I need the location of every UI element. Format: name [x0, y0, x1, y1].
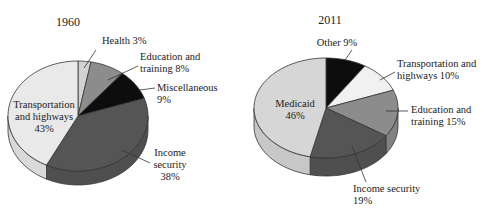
slice-label-education-and-training: Education andtraining 15%	[411, 104, 472, 127]
slice-label-health: Health 3%	[102, 35, 147, 46]
pie-chart-2011: 2011Other 9%Transportation andhighways 1…	[254, 13, 477, 206]
pie-charts-figure: 1960Health 3%Education andtraining 8%Mis…	[0, 0, 486, 215]
slice-label-income-security: Income security19%	[353, 183, 421, 206]
slice-label-income-security: Incomesecurity38%	[153, 147, 187, 182]
pie-year-title: 1960	[56, 15, 80, 29]
slice-label-miscellaneous: Miscellaneous9%	[157, 82, 218, 105]
leader-line	[380, 72, 395, 80]
leader-line	[140, 88, 155, 90]
slice-label-education-and-training: Education andtraining 8%	[140, 51, 201, 74]
slice-label-transportation-and-highways: Transportation andhighways 10%	[397, 58, 477, 81]
slice-label-other: Other 9%	[317, 37, 358, 48]
leader-line	[345, 50, 352, 60]
pie-year-title: 2011	[318, 13, 342, 27]
pie-chart-1960: 1960Health 3%Education andtraining 8%Mis…	[8, 15, 218, 185]
